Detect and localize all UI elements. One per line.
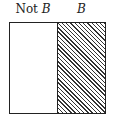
label-not-b-variable: B [42, 2, 51, 16]
label-not-b: Not B [9, 2, 57, 16]
region-b-hatched [58, 23, 105, 113]
region-not-b [10, 23, 58, 113]
label-b: B [57, 2, 106, 16]
label-not-prefix: Not [15, 2, 41, 16]
sample-space-box [9, 22, 106, 114]
